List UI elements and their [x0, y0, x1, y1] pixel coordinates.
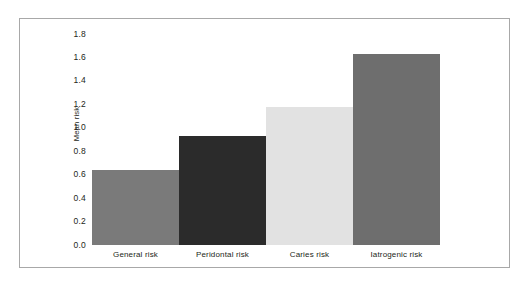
- bar-0: [92, 170, 179, 245]
- y-tick-label: 1.6: [60, 53, 86, 62]
- y-axis-tick-labels: 0.00.20.40.60.81.01.21.41.61.8: [60, 34, 86, 245]
- bar-1: [179, 136, 266, 245]
- bar-2: [266, 107, 353, 245]
- y-tick-label: 0.6: [60, 170, 86, 179]
- plot-area: [92, 34, 440, 245]
- y-tick-label: 0.0: [60, 241, 86, 250]
- x-tick-label: Caries risk: [266, 250, 353, 259]
- bar-3: [353, 54, 440, 245]
- y-tick-label: 0.4: [60, 194, 86, 203]
- x-tick-label: General risk: [92, 250, 179, 259]
- y-tick-label: 0.2: [60, 217, 86, 226]
- y-tick-label: 1.0: [60, 123, 86, 132]
- y-tick-label: 1.2: [60, 100, 86, 109]
- y-tick-label: 1.4: [60, 76, 86, 85]
- x-axis-tick-labels: General riskPeridontal riskCaries riskIa…: [92, 250, 440, 264]
- y-tick-label: 0.8: [60, 147, 86, 156]
- bar-chart: Mean risk 0.00.20.40.60.81.01.21.41.61.8…: [0, 0, 529, 287]
- x-tick-label: Peridontal risk: [179, 250, 266, 259]
- x-tick-label: Iatrogenic risk: [353, 250, 440, 259]
- y-tick-label: 1.8: [60, 30, 86, 39]
